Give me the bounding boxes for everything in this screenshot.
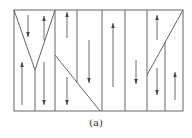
- arrow-down-icon: [42, 100, 46, 105]
- arrow-down-icon: [155, 90, 159, 95]
- arrow-up-icon: [173, 72, 177, 77]
- arrow-down-icon: [87, 78, 91, 83]
- figure-caption: (a): [0, 117, 192, 128]
- arrow-up-icon: [20, 62, 24, 67]
- arrow-up-icon: [42, 16, 46, 21]
- arrow-up-icon: [155, 15, 159, 20]
- arrow-up-icon: [65, 12, 69, 17]
- arrow-up-icon: [111, 23, 115, 28]
- arrow-down-icon: [65, 100, 69, 105]
- arrow-down-icon: [134, 79, 138, 84]
- divider-line: [14, 10, 35, 70]
- arrow-down-icon: [26, 32, 30, 37]
- frame-border: [14, 10, 183, 111]
